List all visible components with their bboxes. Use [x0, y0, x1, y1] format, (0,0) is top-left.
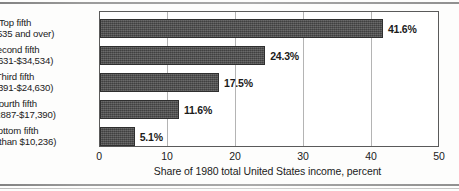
category-name: Fourth fifth: [0, 98, 37, 109]
xtick-50: 50: [433, 150, 444, 162]
bar-value-label: 5.1%: [140, 131, 163, 143]
category-label-top-fifth: Top fifth ($34,535 and over): [0, 17, 95, 39]
bar-value-label: 41.6%: [388, 23, 417, 35]
x-axis-label: Share of 1980 total United States income…: [0, 165, 459, 177]
bar-value-label: 11.6%: [184, 104, 212, 116]
xtick-20: 20: [229, 150, 240, 162]
bar-value-label: 24.3%: [270, 50, 299, 62]
chart-figure: Top fifth ($34,535 and over) Second fift…: [0, 0, 459, 191]
bar-top-fifth: [100, 19, 383, 38]
bar-second-fifth: [100, 46, 265, 65]
plot-area: 41.6% 24.3% 17.5% 11.6% 5.1%: [99, 11, 439, 147]
page-rule-top: [0, 2, 459, 4]
category-label-third-fifth: Third fifth ($17,391-$24,630): [0, 71, 95, 93]
category-range: (Less than $10,236): [0, 136, 95, 147]
category-label-fourth-fifth: Fourth fifth ($10,2887-$17,390): [0, 98, 95, 120]
category-name: Bottom fifth: [0, 125, 38, 136]
xtick-40: 40: [365, 150, 376, 162]
page-rule-bottom-secondary: [0, 188, 459, 189]
bar-fourth-fifth: [100, 100, 179, 119]
bar-value-label: 17.5%: [224, 77, 253, 89]
bar-bottom-fifth: [100, 127, 135, 146]
category-range: ($24,631-$34,534): [0, 55, 95, 66]
category-range: ($10,2887-$17,390): [0, 109, 95, 120]
bar-third-fifth: [100, 73, 219, 92]
page-rule-bottom: [0, 184, 459, 186]
category-name: Third fifth: [0, 71, 34, 82]
xtick-0: 0: [96, 150, 102, 162]
category-range: ($17,391-$24,630): [0, 82, 95, 93]
xtick-10: 10: [161, 150, 172, 162]
category-label-bottom-fifth: Bottom fifth (Less than $10,236): [0, 125, 95, 147]
category-name: Second fifth: [0, 44, 39, 55]
category-name: Top fifth: [0, 17, 31, 28]
category-label-second-fifth: Second fifth ($24,631-$34,534): [0, 44, 95, 66]
category-range: ($34,535 and over): [0, 28, 95, 39]
xtick-30: 30: [297, 150, 308, 162]
